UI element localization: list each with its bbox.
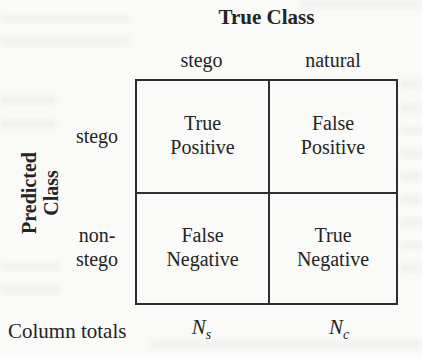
row-header-stego: stego bbox=[61, 124, 133, 148]
column-header-natural: natural bbox=[268, 48, 398, 72]
cell-true-negative: True Negative bbox=[270, 223, 396, 271]
row-axis-title-line1: Predicted bbox=[18, 152, 40, 234]
row-header-nonstego: non- stego bbox=[61, 223, 133, 271]
bleedthrough-smudge bbox=[0, 14, 130, 60]
cell-false-positive-line2: Positive bbox=[270, 135, 396, 159]
grid-horizontal-divider bbox=[137, 192, 396, 194]
column-axis-title: True Class bbox=[135, 5, 398, 29]
cell-false-negative: False Negative bbox=[137, 223, 268, 271]
bleedthrough-smudge bbox=[0, 262, 60, 302]
cell-false-negative-line2: Negative bbox=[137, 247, 268, 271]
cell-false-positive: False Positive bbox=[270, 111, 396, 159]
cell-true-positive: True Positive bbox=[137, 111, 268, 159]
total-natural-subscript: c bbox=[343, 327, 349, 342]
row-header-nonstego-line2: stego bbox=[61, 247, 133, 271]
total-stego-subscript: s bbox=[206, 327, 211, 342]
column-total-stego: Ns bbox=[135, 314, 268, 348]
cell-true-positive-line1: True bbox=[137, 111, 268, 135]
cell-true-negative-line1: True bbox=[270, 223, 396, 247]
row-header-nonstego-line1: non- bbox=[61, 223, 133, 247]
row-axis-title-line2: Class bbox=[40, 152, 62, 234]
column-total-natural: Nc bbox=[274, 314, 404, 348]
confusion-matrix-figure: True Class stego natural Predicted Class… bbox=[0, 0, 422, 357]
total-stego-symbol: N bbox=[192, 315, 206, 339]
cell-true-positive-line2: Positive bbox=[137, 135, 268, 159]
column-header-stego: stego bbox=[135, 48, 268, 72]
cell-true-negative-line2: Negative bbox=[270, 247, 396, 271]
cell-false-positive-line1: False bbox=[270, 111, 396, 135]
cell-false-negative-line1: False bbox=[137, 223, 268, 247]
bleedthrough-smudge bbox=[400, 80, 422, 280]
total-natural-symbol: N bbox=[329, 315, 343, 339]
column-totals-label: Column totals bbox=[8, 319, 126, 343]
bleedthrough-smudge bbox=[0, 96, 56, 136]
